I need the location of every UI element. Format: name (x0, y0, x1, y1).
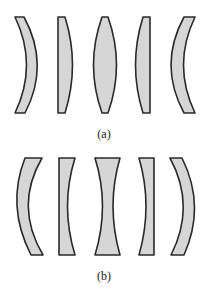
lens-b4-concave-plano (139, 158, 154, 255)
lens-b1-meniscus (17, 158, 43, 255)
lens-a2-plano-convex (58, 17, 73, 113)
panel-b-label: (b) (84, 269, 124, 284)
lens-b3-biconcave (95, 158, 120, 255)
lens-b2-plano-concave (59, 158, 75, 255)
lens-a3-biconvex (94, 17, 117, 113)
panel-b-lenses (17, 158, 195, 255)
panel-a-label: (a) (84, 127, 124, 142)
panel-a-lenses (15, 17, 195, 113)
lens-a1-meniscus (15, 17, 37, 113)
lens-diagram (0, 0, 205, 292)
lens-a5-meniscus (171, 17, 195, 113)
lens-a4-convex-plano (136, 17, 151, 113)
lens-b5-meniscus (170, 158, 195, 255)
